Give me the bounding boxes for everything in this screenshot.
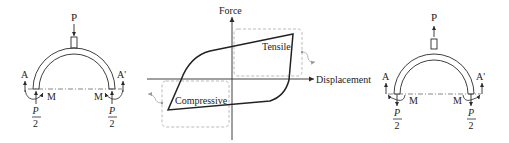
right-arch-inner bbox=[400, 60, 468, 94]
right-moment-left-label: M bbox=[409, 95, 418, 106]
right-reaction-right-denominator: 2 bbox=[469, 120, 474, 131]
right-moment-right-label: M bbox=[453, 95, 462, 106]
force-displacement-chart: Force Displacement Tensile Compressive bbox=[147, 5, 371, 140]
left-load-label: P bbox=[71, 11, 77, 23]
left-moment-right-arrow-icon bbox=[105, 90, 123, 99]
left-moment-left-arrow-icon bbox=[25, 90, 43, 99]
right-load-label: P bbox=[431, 11, 437, 23]
left-arch-inner bbox=[39, 54, 109, 89]
left-moment-right-label: M bbox=[94, 91, 103, 102]
left-support-a-prime-label: A' bbox=[117, 69, 126, 80]
left-reaction-right-numerator: P bbox=[108, 105, 115, 116]
right-reaction-right-numerator: P bbox=[467, 107, 474, 118]
diagram-canvas: P A A' M M P 2 P 2 Force bbox=[0, 0, 509, 143]
right-arch-structure: P A A' M M P 2 P 2 bbox=[382, 11, 485, 131]
left-reaction-left-denominator: 2 bbox=[33, 118, 38, 129]
right-stem bbox=[431, 39, 437, 49]
left-reaction-left-numerator: P bbox=[32, 105, 39, 116]
left-reaction-right-denominator: 2 bbox=[110, 118, 115, 129]
compressive-pointer-icon bbox=[148, 94, 162, 103]
tensile-pointer-icon bbox=[302, 52, 315, 62]
left-stem bbox=[71, 37, 77, 48]
right-support-a-label: A bbox=[382, 71, 390, 82]
displacement-axis-label: Displacement bbox=[316, 74, 371, 85]
tensile-label: Tensile bbox=[262, 41, 291, 52]
compressive-label: Compressive bbox=[175, 95, 228, 106]
left-moment-left-label: M bbox=[47, 91, 56, 102]
right-reaction-left-numerator: P bbox=[393, 107, 400, 118]
left-support-a-label: A bbox=[21, 69, 29, 80]
right-moment-right-arrow-icon bbox=[463, 95, 480, 100]
left-arch-structure: P A A' M M P 2 P 2 bbox=[21, 11, 126, 129]
force-axis-label: Force bbox=[219, 5, 242, 16]
right-moment-left-arrow-icon bbox=[388, 95, 405, 100]
right-support-a-prime-label: A' bbox=[476, 71, 485, 82]
right-reaction-left-denominator: 2 bbox=[395, 120, 400, 131]
